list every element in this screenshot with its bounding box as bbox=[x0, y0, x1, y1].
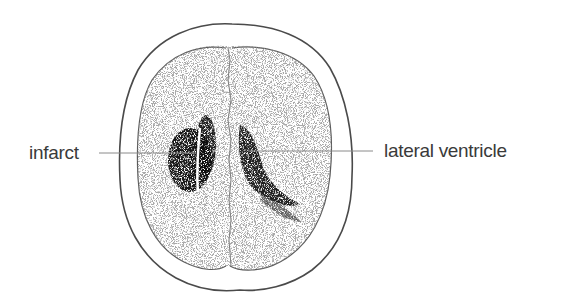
brain-stipple bbox=[130, 40, 340, 280]
brain-section-diagram bbox=[0, 0, 572, 304]
